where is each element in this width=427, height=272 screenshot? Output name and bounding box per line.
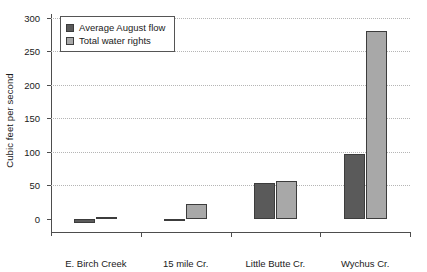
legend-item-label: Average August flow bbox=[79, 23, 165, 33]
gridline bbox=[51, 118, 410, 119]
y-axis-tick: 150 bbox=[47, 118, 51, 119]
y-axis-tick-label: 250 bbox=[24, 48, 40, 58]
bar bbox=[366, 31, 387, 218]
x-axis-label: 15 mile Cr. bbox=[163, 258, 208, 269]
y-axis-tick: 250 bbox=[47, 51, 51, 52]
y-axis-tick: 0 bbox=[47, 219, 51, 220]
y-axis-tick: 50 bbox=[47, 185, 51, 186]
x-axis-label: E. Birch Creek bbox=[65, 258, 126, 269]
gridline bbox=[51, 152, 410, 153]
y-axis-tick-label: 50 bbox=[29, 181, 40, 191]
legend-item: Total water rights bbox=[66, 34, 165, 47]
bar bbox=[164, 219, 185, 222]
y-axis-tick: 200 bbox=[47, 85, 51, 86]
y-axis-title-label: Cubic feet per second bbox=[4, 73, 15, 168]
x-axis-label: Wychus Cr. bbox=[341, 258, 389, 269]
bar bbox=[96, 217, 117, 219]
bar bbox=[186, 204, 207, 219]
legend-swatch-icon bbox=[66, 24, 74, 32]
y-axis-tick-label: 300 bbox=[24, 14, 40, 24]
y-axis-tick-label: 200 bbox=[24, 81, 40, 91]
x-axis-tick bbox=[410, 232, 411, 237]
y-axis-tick-label: 150 bbox=[24, 115, 40, 125]
bar bbox=[344, 154, 365, 219]
bar bbox=[254, 183, 275, 218]
bar-chart: Cubic feet per second 050100150200250300… bbox=[0, 0, 427, 272]
legend-swatch-icon bbox=[66, 37, 74, 45]
y-axis-tick: 300 bbox=[47, 18, 51, 19]
legend-item-label: Total water rights bbox=[79, 36, 151, 46]
gridline bbox=[51, 85, 410, 86]
x-axis-label: Little Butte Cr. bbox=[246, 258, 306, 269]
x-axis-tick bbox=[320, 232, 321, 237]
x-axis-tick bbox=[141, 232, 142, 237]
chart-legend: Average August flowTotal water rights bbox=[60, 16, 175, 52]
bar bbox=[276, 181, 297, 219]
y-axis-tick-label: 100 bbox=[24, 148, 40, 158]
x-axis-tick bbox=[231, 232, 232, 237]
bar bbox=[74, 219, 95, 223]
y-axis-line bbox=[51, 14, 52, 236]
y-axis-title: Cubic feet per second bbox=[0, 0, 18, 240]
y-axis-tick: 100 bbox=[47, 152, 51, 153]
legend-item: Average August flow bbox=[66, 21, 165, 34]
y-axis-tick-label: 0 bbox=[35, 215, 40, 225]
